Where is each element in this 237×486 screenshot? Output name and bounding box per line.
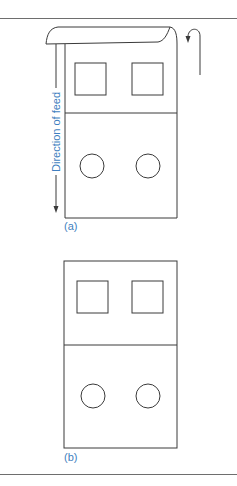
square-b-right — [132, 281, 163, 313]
square-a-right — [132, 63, 163, 95]
paper-curl — [46, 27, 177, 218]
sheet-b-outline — [64, 261, 177, 448]
square-a-left — [75, 63, 106, 95]
circle-b-left — [81, 384, 105, 408]
panel-b-label: (b) — [64, 451, 77, 463]
circle-a-right — [136, 154, 160, 178]
feed-arrowhead — [54, 206, 59, 213]
direction-of-feed-label: Direction of feed — [50, 92, 62, 172]
circle-a-left — [80, 154, 104, 178]
square-b-left — [77, 281, 108, 313]
panel-b — [64, 261, 177, 448]
diagram-canvas — [0, 0, 237, 486]
u-turn-arrowhead — [186, 36, 191, 43]
panel-a — [46, 27, 200, 218]
paper-curl-underside — [46, 27, 170, 44]
sheet-a-outline — [65, 44, 177, 218]
panel-a-label: (a) — [64, 220, 77, 232]
circle-b-right — [136, 384, 160, 408]
